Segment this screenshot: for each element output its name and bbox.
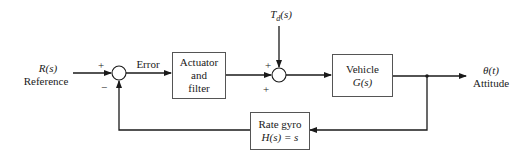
output-symbol: θ(t) bbox=[471, 64, 511, 77]
sum1-minus-sign: − bbox=[101, 82, 107, 93]
vehicle-block: Vehicle G(s) bbox=[332, 54, 393, 97]
output-label: Attitude bbox=[466, 77, 516, 90]
actuator-filter-block: Actuator and filter bbox=[172, 52, 226, 99]
summing-junction-1 bbox=[112, 66, 126, 80]
vehicle-transfer-function: G(s) bbox=[353, 76, 373, 89]
input-symbol: R(s) bbox=[28, 62, 68, 75]
disturbance-arg: (s) bbox=[280, 8, 292, 20]
sum2-bottom-plus-sign: + bbox=[263, 84, 269, 95]
rate-gyro-block: Rate gyro H(s) = s bbox=[250, 112, 310, 150]
actuator-line-3: filter bbox=[188, 82, 209, 95]
actuator-line-2: and bbox=[191, 69, 207, 82]
sum1-plus-sign: + bbox=[98, 60, 104, 71]
vehicle-line-1: Vehicle bbox=[346, 63, 379, 76]
input-label: Reference bbox=[18, 75, 74, 88]
actuator-line-1: Actuator bbox=[180, 56, 218, 69]
sum2-top-plus-sign: + bbox=[265, 60, 271, 71]
disturbance-symbol: Td(s) bbox=[263, 8, 299, 25]
summing-junction-2 bbox=[272, 68, 286, 82]
rate-gyro-line-1: Rate gyro bbox=[258, 118, 301, 131]
rate-gyro-transfer-function: H(s) = s bbox=[262, 131, 299, 144]
error-label: Error bbox=[130, 58, 166, 71]
